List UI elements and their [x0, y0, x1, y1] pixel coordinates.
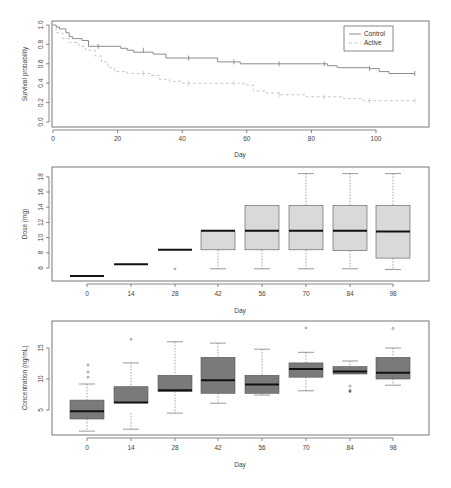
- dose-ytick: 12: [37, 218, 44, 226]
- dose-plot-frame: [52, 167, 429, 281]
- conc-plot-frame: [52, 321, 429, 435]
- km-legend: Control Active: [344, 26, 393, 51]
- conc-xtick: 70: [302, 444, 310, 451]
- dose-box-day70: [289, 174, 323, 269]
- dose-ytick: 18: [37, 173, 44, 181]
- dose-box-day84: [333, 174, 367, 269]
- conc-xtick: 0: [85, 444, 89, 451]
- conc-box-day28: [158, 342, 192, 413]
- conc-xtick: 84: [346, 444, 354, 451]
- dose-box-day98: [376, 174, 410, 270]
- active-censor-marks: [143, 71, 414, 103]
- km-ytick: 0.8: [37, 40, 44, 49]
- dose-ytick: 14: [37, 203, 44, 211]
- conc-panel: 5 10 15 Concentration (ng/mL) 0 14 28 42…: [21, 321, 429, 469]
- conc-x-label: Day: [234, 461, 246, 469]
- km-y-label: Survival probability: [21, 46, 29, 101]
- conc-ytick: 10: [37, 375, 44, 383]
- conc-box-day70: [289, 327, 323, 391]
- dose-xtick: 0: [85, 290, 89, 297]
- conc-xtick: 14: [127, 444, 135, 451]
- dose-xtick: 14: [127, 290, 135, 297]
- conc-ytick: 5: [37, 408, 44, 412]
- conc-xtick: 28: [171, 444, 179, 451]
- dose-box-day42: [201, 231, 235, 269]
- conc-xtick: 98: [389, 444, 397, 451]
- dose-ytick: 10: [37, 234, 44, 242]
- conc-xtick: 56: [258, 444, 266, 451]
- dose-xtick: 84: [346, 290, 354, 297]
- km-x-label: Day: [234, 151, 246, 159]
- km-ytick: 0.0: [37, 117, 44, 126]
- km-xtick: 20: [114, 135, 122, 142]
- conc-box-day84: [333, 361, 367, 392]
- conc-box-day0: [70, 364, 104, 431]
- figure: 0.0 0.2 0.4 0.6 0.8 1.0 Survival probabi…: [0, 0, 451, 488]
- dose-ytick: 16: [37, 188, 44, 196]
- legend-active-label: Active: [364, 39, 382, 46]
- km-xtick: 60: [243, 135, 251, 142]
- conc-box-day42: [201, 343, 235, 403]
- dose-x-label: Day: [234, 307, 246, 315]
- conc-y-label: Concentration (ng/mL): [21, 346, 29, 411]
- dose-ytick: 8: [37, 251, 44, 255]
- km-xtick: 100: [371, 135, 382, 142]
- dose-y-label: Dose (mg): [21, 209, 29, 239]
- dose-xtick: 70: [302, 290, 310, 297]
- km-ytick: 0.6: [37, 59, 44, 68]
- dose-xtick: 42: [214, 290, 222, 297]
- conc-box-day98: [376, 328, 410, 386]
- conc-ytick: 15: [37, 344, 44, 352]
- dose-ytick: 6: [37, 266, 44, 270]
- km-xtick: 40: [179, 135, 187, 142]
- km-ytick: 0.2: [37, 98, 44, 107]
- dose-xtick: 28: [171, 290, 179, 297]
- km-panel: 0.0 0.2 0.4 0.6 0.8 1.0 Survival probabi…: [21, 20, 429, 159]
- conc-box-day56: [245, 349, 279, 395]
- dose-xtick: 98: [389, 290, 397, 297]
- dose-box-day28: [158, 250, 192, 270]
- legend-control-label: Control: [364, 30, 386, 37]
- km-ytick: 1.0: [37, 20, 44, 29]
- conc-box-day14: [114, 338, 148, 429]
- km-xtick: 0: [51, 135, 55, 142]
- km-xtick: 80: [308, 135, 316, 142]
- dose-xtick: 56: [258, 290, 266, 297]
- dose-box-day56: [245, 206, 279, 269]
- conc-xtick: 42: [214, 444, 222, 451]
- dose-panel: 6 8 10 12 14 16 18 Dose (mg) 0 14 28 42 …: [21, 167, 429, 315]
- km-ytick: 0.4: [37, 78, 44, 87]
